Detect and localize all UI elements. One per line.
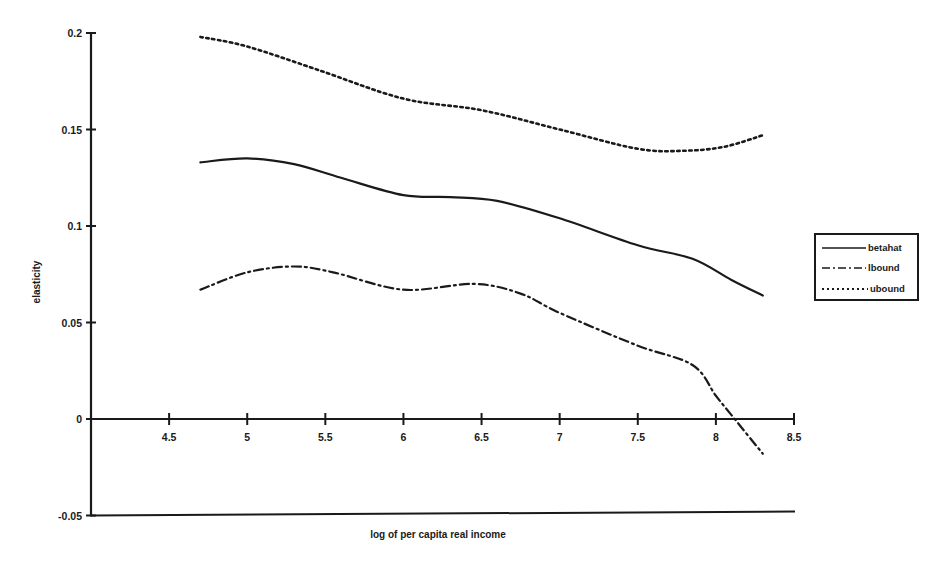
- x-tick-label: 8.5: [787, 431, 802, 443]
- axes: -0.0500.050.10.150.24.555.566.577.588.5: [58, 27, 801, 522]
- x-tick-label: 7.5: [630, 431, 645, 443]
- elasticity-chart: -0.0500.050.10.150.24.555.566.577.588.5 …: [0, 0, 942, 565]
- x-tick-label: 5.5: [318, 431, 333, 443]
- legend-label: lbound: [868, 262, 900, 273]
- x-tick-label: 5: [244, 431, 250, 443]
- y-tick-label: 0.2: [67, 27, 82, 39]
- x-tick-label: 6: [401, 431, 407, 443]
- x-tick-label: 6.5: [474, 431, 489, 443]
- legend-label: betahat: [868, 242, 903, 253]
- y-axis-title: elasticity: [31, 260, 42, 303]
- bottom-frame-line: [91, 512, 795, 516]
- series-ubound-line: [200, 37, 762, 151]
- y-tick-label: -0.05: [58, 510, 82, 522]
- series-lbound-line: [200, 267, 762, 454]
- y-tick-label: 0.1: [67, 220, 82, 232]
- x-tick-label: 4.5: [162, 431, 177, 443]
- y-tick-label: 0.15: [62, 124, 83, 136]
- y-tick-label: 0.05: [62, 317, 83, 329]
- y-tick-label: 0: [76, 413, 82, 425]
- legend-label: ubound: [870, 283, 905, 294]
- legend: betahat lbound ubound: [815, 234, 918, 300]
- series-betahat-line: [200, 158, 762, 295]
- x-tick-label: 7: [557, 431, 563, 443]
- x-tick-label: 8: [713, 431, 719, 443]
- series-lines: [200, 37, 762, 454]
- x-axis-title: log of per capita real income: [370, 529, 506, 540]
